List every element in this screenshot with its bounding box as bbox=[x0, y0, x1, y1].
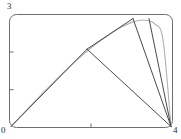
chord-mid-to-peak bbox=[87, 19, 133, 50]
chord-segments bbox=[11, 19, 171, 127]
plot-frame bbox=[10, 15, 173, 128]
plot-figure: 3 0 4 bbox=[0, 0, 181, 139]
series-curve bbox=[11, 20, 171, 126]
y-max-label: 3 bbox=[7, 2, 12, 11]
origin-label: 0 bbox=[1, 126, 6, 135]
x-max-label: 4 bbox=[173, 126, 178, 135]
chord-mid-to-xmax bbox=[87, 49, 171, 126]
y-axis-ticks bbox=[10, 52, 14, 90]
plot-canvas bbox=[0, 0, 181, 139]
chord-origin-to-mid bbox=[11, 49, 87, 126]
